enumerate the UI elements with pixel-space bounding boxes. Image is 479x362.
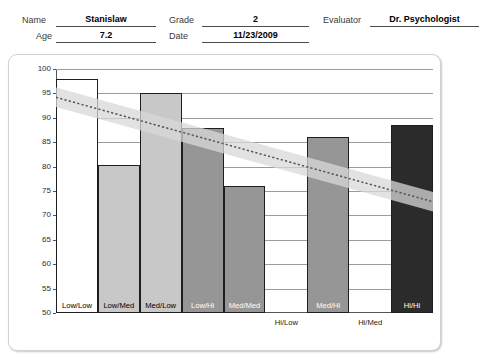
bar-category-label: Hi/Hi <box>391 301 433 310</box>
chart-panel: 50556065707580859095100 Low/LowLow/MedMe… <box>8 54 441 351</box>
y-tick-label: 100 <box>25 65 51 73</box>
y-tick-label: 95 <box>25 89 51 97</box>
plot-wrapper: 50556065707580859095100 Low/LowLow/MedMe… <box>9 55 442 352</box>
y-tick-label: 65 <box>25 236 51 244</box>
bar[interactable] <box>391 125 433 313</box>
y-tick-label: 55 <box>25 285 51 293</box>
bar-category-label: Med/Hi <box>307 301 349 310</box>
y-tick-mark <box>53 93 56 94</box>
plot-area: Low/LowLow/MedMed/LowLow/HiMed/MedHi/Low… <box>56 69 433 313</box>
y-tick-mark <box>53 167 56 168</box>
y-tick-label: 85 <box>25 138 51 146</box>
y-tick-mark <box>53 69 56 70</box>
y-tick-mark <box>53 264 56 265</box>
y-tick-label: 70 <box>25 211 51 219</box>
patient-info-header: Name Stanislaw Grade 2 Evaluator Dr. Psy… <box>0 0 454 48</box>
date-value[interactable]: 11/23/2009 <box>202 30 309 43</box>
bar[interactable] <box>182 128 224 313</box>
bar-category-label: Hi/Med <box>349 318 391 327</box>
y-tick-mark <box>53 313 56 314</box>
bar[interactable] <box>98 165 140 313</box>
y-axis-labels: 50556065707580859095100 <box>25 55 51 352</box>
bar-category-label: Med/Med <box>224 301 266 310</box>
age-label: Age <box>22 31 52 43</box>
y-tick-mark <box>53 118 56 119</box>
y-tick-label: 75 <box>25 187 51 195</box>
y-tick-mark <box>53 215 56 216</box>
y-tick-label: 60 <box>25 260 51 268</box>
bar-category-label: Med/Low <box>140 301 182 310</box>
y-tick-label: 90 <box>25 114 51 122</box>
bar[interactable] <box>224 186 266 313</box>
bar-category-label: Low/Low <box>56 301 98 310</box>
bar-category-label: Hi/Low <box>265 318 307 327</box>
y-tick-mark <box>53 191 56 192</box>
age-value[interactable]: 7.2 <box>56 30 156 43</box>
bar-category-label: Low/Med <box>98 301 140 310</box>
header-row-2: Age 7.2 Date 11/23/2009 <box>0 26 454 43</box>
date-label: Date <box>169 31 199 43</box>
y-tick-mark <box>53 142 56 143</box>
bar-category-label: Low/Hi <box>182 301 224 310</box>
bar[interactable] <box>56 79 98 313</box>
y-tick-label: 50 <box>25 309 51 317</box>
y-tick-mark <box>53 289 56 290</box>
header-row-1: Name Stanislaw Grade 2 Evaluator Dr. Psy… <box>0 10 454 27</box>
bar[interactable] <box>140 93 182 313</box>
bar[interactable] <box>307 137 349 313</box>
y-tick-mark <box>53 240 56 241</box>
y-tick-label: 80 <box>25 163 51 171</box>
bar-series: Low/LowLow/MedMed/LowLow/HiMed/MedHi/Low… <box>56 69 433 313</box>
